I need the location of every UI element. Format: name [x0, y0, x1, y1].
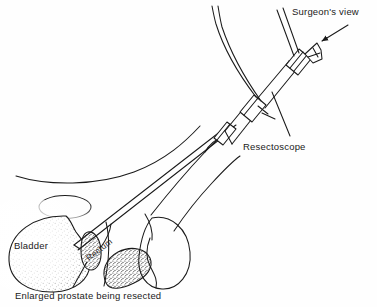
irrigation-tube [212, 6, 261, 101]
resectoscope-leader [272, 92, 290, 136]
surgeons-view-leader [322, 25, 348, 41]
rectum-fill [104, 248, 151, 288]
turp-illustration [0, 0, 377, 307]
label-resectoscope: Resectoscope [243, 141, 306, 152]
caption-enlarged-prostate: Enlarged prostate being resected [15, 290, 161, 301]
label-bladder: Bladder [14, 240, 48, 251]
rectum-organ [104, 248, 151, 288]
abdominal-wall [16, 126, 200, 183]
label-surgeons-view: Surgeon's view [292, 6, 359, 17]
pelvic-floor-right [147, 238, 157, 288]
